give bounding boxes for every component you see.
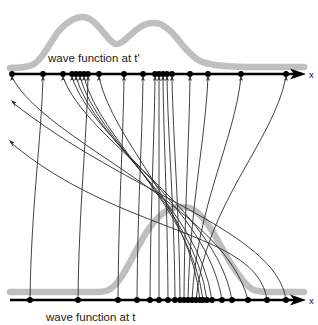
axis-marker-dot (115, 297, 121, 303)
axis-marker-dot (9, 71, 15, 77)
axis-marker-dot (245, 297, 251, 303)
axis-marker-dot (85, 71, 91, 77)
axis-marker-dot (205, 71, 211, 77)
axis-marker-dot (96, 71, 102, 77)
axis-marker-dot (238, 71, 244, 77)
axis-marker-dot (147, 297, 153, 303)
axis-marker-dot (209, 297, 215, 303)
wave-function-top-label: wave function at t' (47, 52, 140, 64)
axis-marker-dot (156, 297, 162, 303)
axis-marker-dot (27, 297, 33, 303)
axis-marker-dot (40, 71, 46, 77)
axis-marker-dot (172, 297, 178, 303)
axis-marker-dot (204, 297, 210, 303)
axis-marker-dot (283, 297, 289, 303)
axis-marker-dot (75, 297, 81, 303)
axis-marker-dot (264, 297, 270, 303)
axis-marker-dot (283, 71, 289, 77)
axis-marker-dot (229, 297, 235, 303)
axis-marker-dot (164, 71, 170, 77)
x-axis-label-bottom: x (309, 295, 314, 306)
axis-marker-dot (134, 297, 140, 303)
axis-marker-dot (121, 71, 127, 77)
axis-marker-dot (60, 71, 66, 77)
axis-marker-dot (169, 71, 175, 77)
axis-marker-dot (219, 297, 225, 303)
axis-marker-dot (140, 71, 146, 77)
wave-function-bottom-label: wave function at t (45, 311, 136, 323)
physics-figure: wave function at t' wave function at t x… (0, 0, 318, 325)
x-axis-label-top: x (309, 69, 314, 80)
figure-canvas: wave function at t' wave function at t x… (0, 0, 318, 325)
axis-marker-dot (187, 71, 193, 77)
axis-marker-dot (165, 297, 171, 303)
